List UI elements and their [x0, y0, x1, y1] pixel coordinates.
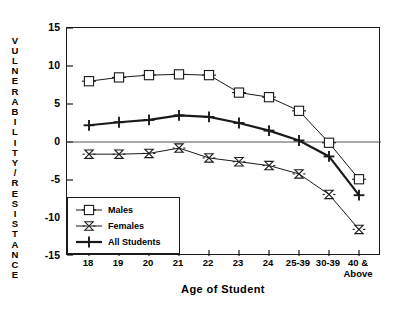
marker-bowtie — [175, 144, 183, 152]
y-axis-tick-label: 15 — [30, 21, 60, 33]
legend-entry: Males — [68, 202, 179, 218]
legend-marker-plus-icon — [74, 235, 104, 249]
y-axis-tick-label: 10 — [30, 59, 60, 71]
chart-figure: VULNERABILITY/RESISTANCE 151050-5-10-15 … — [0, 0, 408, 314]
marker-square — [144, 71, 153, 80]
y-axis-tick-label: 5 — [30, 97, 60, 109]
marker-square — [234, 88, 243, 97]
marker-bowtie — [355, 225, 363, 233]
series-all-students-line — [89, 115, 359, 195]
x-axis-title: Age of Student — [66, 283, 380, 295]
marker-square — [204, 71, 213, 80]
marker-bowtie — [295, 170, 303, 178]
marker-square — [354, 175, 363, 184]
legend-label: Females — [104, 221, 144, 231]
y-axis-tick-label: -10 — [30, 211, 60, 223]
legend-marker-square-icon — [74, 203, 104, 217]
marker-square — [264, 93, 273, 102]
marker-square — [84, 77, 93, 86]
y-axis-title-letter: E — [12, 270, 18, 280]
marker-square — [324, 138, 333, 147]
legend-marker-bowtie-x-icon — [74, 219, 104, 233]
series-all-students — [84, 110, 365, 201]
legend-entry: All Students — [68, 234, 179, 250]
legend-entry: Females — [68, 218, 179, 234]
marker-square — [114, 73, 123, 82]
x-axis-tick-label: 40 & Above — [330, 258, 386, 279]
marker-square — [294, 106, 303, 115]
y-axis-tick-labels: 151050-5-10-15 — [26, 27, 60, 255]
marker-square — [174, 70, 183, 79]
legend-label: Males — [104, 205, 133, 215]
marker-bowtie — [325, 190, 333, 198]
y-axis-tick-label: 0 — [30, 135, 60, 147]
y-axis-title: VULNERABILITY/RESISTANCE — [4, 14, 26, 302]
series-males-line — [89, 74, 359, 179]
marker-square — [84, 205, 93, 214]
y-axis-tick-label: -15 — [30, 249, 60, 261]
legend-label: All Students — [104, 237, 161, 247]
y-axis-tick-label: -5 — [30, 173, 60, 185]
chart-legend: MalesFemalesAll Students — [67, 197, 180, 254]
series-males — [82, 70, 366, 184]
